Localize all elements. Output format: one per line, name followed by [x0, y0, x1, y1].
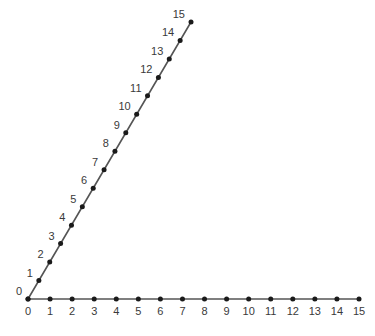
x-axis-tick-label-13: 13 — [309, 306, 321, 317]
diagonal-tick-label-8: 8 — [103, 138, 109, 149]
x-axis-point-8 — [202, 297, 207, 302]
x-axis-point-14 — [334, 297, 339, 302]
x-axis-point-4 — [114, 297, 119, 302]
x-axis-point-5 — [136, 297, 141, 302]
diagonal-tick-label-0: 0 — [16, 286, 22, 297]
diagonal-point-10 — [134, 112, 139, 117]
x-axis-point-9 — [224, 297, 229, 302]
x-axis-tick-label-7: 7 — [179, 306, 185, 317]
diagonal-point-5 — [80, 204, 85, 209]
diagonal-tick-label-12: 12 — [140, 64, 152, 75]
diagonal-point-13 — [167, 56, 172, 61]
number-line-figure: 0123456789101112131415 01234567891011121… — [0, 0, 375, 336]
x-axis-tick-label-14: 14 — [331, 306, 343, 317]
diagonal-point-4 — [69, 223, 74, 228]
x-axis-point-13 — [312, 297, 317, 302]
x-axis-tick-label-1: 1 — [47, 306, 53, 317]
x-axis-tick-label-4: 4 — [113, 306, 119, 317]
x-axis-point-3 — [92, 297, 97, 302]
diagonal-tick-label-9: 9 — [114, 119, 120, 130]
diagonal-tick-label-15: 15 — [173, 9, 185, 20]
diagonal-tick-label-13: 13 — [151, 45, 163, 56]
x-axis-point-12 — [290, 297, 295, 302]
x-axis-point-11 — [268, 297, 273, 302]
diagonal-point-9 — [123, 130, 128, 135]
x-axis-tick-label-12: 12 — [287, 306, 299, 317]
x-axis-tick-label-5: 5 — [135, 306, 141, 317]
diagonal-tick-label-4: 4 — [59, 212, 65, 223]
diagonal-point-14 — [178, 38, 183, 43]
diagonal-point-2 — [47, 260, 52, 265]
x-axis-point-7 — [180, 297, 185, 302]
plot-canvas — [0, 0, 375, 336]
diagonal-tick-label-10: 10 — [118, 101, 130, 112]
x-axis-tick-label-2: 2 — [69, 306, 75, 317]
diagonal-tick-label-2: 2 — [38, 249, 44, 260]
x-axis-point-15 — [357, 297, 362, 302]
x-axis-tick-label-11: 11 — [265, 306, 276, 317]
diagonal-point-15 — [189, 20, 194, 25]
diagonal-point-1 — [36, 278, 41, 283]
x-axis-tick-label-0: 0 — [25, 306, 31, 317]
diagonal-point-8 — [112, 149, 117, 154]
diagonal-tick-label-11: 11 — [130, 82, 141, 93]
x-axis-tick-label-10: 10 — [243, 306, 255, 317]
diagonal-tick-label-6: 6 — [81, 175, 87, 186]
x-axis-tick-label-6: 6 — [157, 306, 163, 317]
diagonal-point-12 — [156, 75, 161, 80]
x-axis-point-2 — [70, 297, 75, 302]
diagonal-tick-label-3: 3 — [48, 230, 54, 241]
x-axis-point-1 — [48, 297, 53, 302]
diagonal-tick-label-1: 1 — [27, 267, 33, 278]
x-axis-tick-label-9: 9 — [224, 306, 230, 317]
diagonal-point-0 — [26, 297, 31, 302]
x-axis-tick-label-15: 15 — [353, 306, 365, 317]
diagonal-point-11 — [145, 93, 150, 98]
diagonal-tick-label-5: 5 — [70, 193, 76, 204]
x-axis-tick-label-8: 8 — [201, 306, 207, 317]
diagonal-point-3 — [58, 241, 63, 246]
diagonal-ray-line — [28, 22, 191, 299]
x-axis-point-10 — [246, 297, 251, 302]
x-axis-tick-label-3: 3 — [91, 306, 97, 317]
diagonal-point-6 — [91, 186, 96, 191]
diagonal-tick-label-14: 14 — [162, 27, 174, 38]
diagonal-ray-line-group — [28, 22, 191, 299]
diagonal-point-7 — [102, 167, 107, 172]
x-axis-point-6 — [158, 297, 163, 302]
diagonal-tick-label-7: 7 — [92, 156, 98, 167]
